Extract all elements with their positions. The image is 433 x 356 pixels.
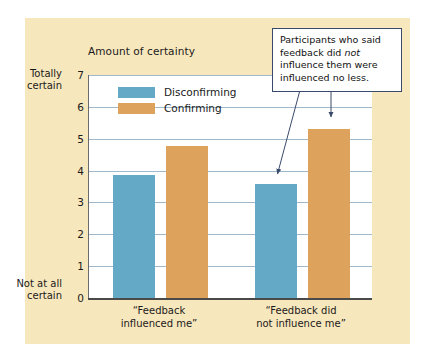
y-caption-top: Totally certain — [27, 68, 62, 92]
y-axis-captions: Totally certain Not at all certain — [0, 0, 62, 356]
y-caption-top-line1: Totally — [30, 68, 62, 79]
x-axis-line — [88, 298, 372, 300]
x-axis-label-line: “Feedback — [133, 305, 186, 316]
legend-item-disconfirming: Disconfirming — [118, 86, 237, 98]
legend-swatch-disconfirming — [118, 87, 155, 98]
x-axis-label-group-1: “Feedbackinfluenced me” — [121, 305, 198, 330]
callout-box: Participants who said feedback did not i… — [272, 28, 402, 92]
legend-label: Disconfirming — [164, 86, 237, 98]
bar-confirming-group-1 — [166, 146, 208, 298]
legend-label: Confirming — [164, 102, 222, 114]
y-axis-ticks: 01234567 — [64, 0, 84, 356]
bar-confirming-group-2 — [308, 129, 350, 298]
callout-text-after: influence them were influenced no less. — [280, 59, 378, 83]
y-tick-label: 6 — [68, 101, 84, 113]
x-axis-label-line: not influence me” — [256, 318, 346, 329]
y-caption-bottom-line1: Not at all — [16, 278, 62, 289]
y-tick-label: 4 — [68, 165, 84, 177]
legend-item-confirming: Confirming — [118, 102, 237, 114]
y-tick-label: 5 — [68, 133, 84, 145]
chart-title: Amount of certainty — [88, 45, 195, 57]
bar-disconfirming-group-2 — [255, 184, 297, 298]
y-caption-top-line2: certain — [27, 80, 62, 91]
legend-swatch-confirming — [118, 103, 155, 114]
y-tick-label: 3 — [68, 196, 84, 208]
y-caption-bottom-line2: certain — [27, 290, 62, 301]
legend: DisconfirmingConfirming — [118, 86, 237, 118]
callout-text-before: Participants who said feedback did — [280, 34, 381, 58]
bar-disconfirming-group-1 — [113, 175, 155, 298]
x-axis-label-group-2: “Feedback didnot influence me” — [256, 305, 346, 330]
y-tick-label: 2 — [68, 228, 84, 240]
y-tick-label: 7 — [68, 69, 84, 81]
y-caption-bottom: Not at all certain — [16, 278, 62, 302]
callout-emphasis: not — [344, 47, 360, 58]
y-tick-label: 1 — [68, 260, 84, 272]
x-axis-label-line: influenced me” — [121, 318, 198, 329]
x-axis-label-line: “Feedback did — [265, 305, 336, 316]
y-tick-label: 0 — [68, 292, 84, 304]
